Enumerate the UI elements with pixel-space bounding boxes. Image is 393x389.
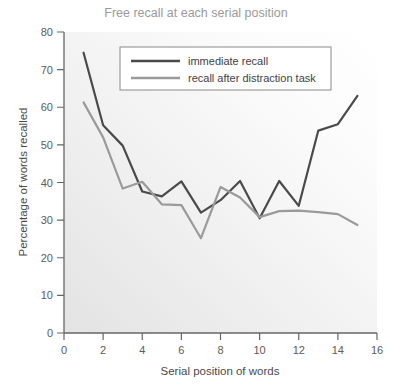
y-tick-label: 20 [41, 252, 53, 264]
x-tick-label: 0 [61, 344, 67, 356]
chart-card: Free recall at each serial position 0102… [0, 0, 393, 389]
chart-legend: immediate recall recall after distractio… [120, 47, 331, 90]
free-recall-line-chart: Free recall at each serial position 0102… [0, 0, 393, 389]
y-axis-ticks: 01020304050607080 [41, 26, 64, 339]
y-tick-label: 80 [41, 26, 53, 38]
x-tick-label: 2 [100, 344, 106, 356]
y-tick-label: 10 [41, 289, 53, 301]
x-tick-label: 8 [217, 344, 223, 356]
y-tick-label: 60 [41, 101, 53, 113]
x-tick-label: 12 [293, 344, 305, 356]
x-tick-label: 14 [332, 344, 344, 356]
y-tick-label: 70 [41, 64, 53, 76]
x-axis-label: Serial position of words [161, 365, 280, 377]
x-tick-label: 6 [178, 344, 184, 356]
y-axis-label: Percentage of words recalled [17, 108, 29, 257]
y-tick-label: 40 [41, 177, 53, 189]
x-tick-label: 4 [139, 344, 145, 356]
chart-title: Free recall at each serial position [104, 6, 287, 20]
y-tick-label: 0 [47, 327, 53, 339]
legend-label-immediate-recall: immediate recall [188, 55, 268, 67]
x-axis-ticks: 0246810121416 [61, 333, 383, 356]
y-tick-label: 50 [41, 139, 53, 151]
legend-label-distraction-recall: recall after distraction task [188, 72, 316, 84]
x-tick-label: 16 [371, 344, 383, 356]
x-tick-label: 10 [254, 344, 266, 356]
y-tick-label: 30 [41, 214, 53, 226]
